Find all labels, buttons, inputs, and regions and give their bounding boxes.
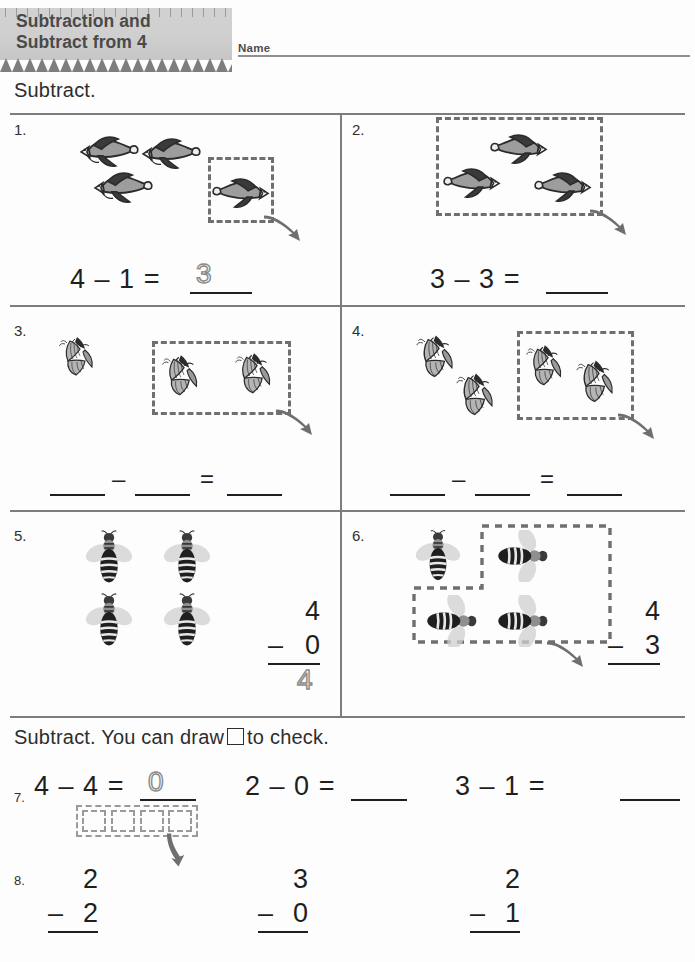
equation-7c: 3 – 1 = xyxy=(455,771,545,802)
subtrahend-blank[interactable] xyxy=(475,494,530,496)
vertical-minuend: 2 xyxy=(470,862,520,896)
page-title: Subtraction and Subtract from 4 xyxy=(16,11,224,53)
problem-number: 8. xyxy=(14,873,25,888)
subtrahend-blank[interactable] xyxy=(135,494,190,496)
take-away-arrow-icon xyxy=(545,640,591,670)
butterfly-icon xyxy=(452,368,506,422)
bee-icon xyxy=(83,591,135,654)
grid-rule-top xyxy=(10,113,685,115)
equals-sign: = xyxy=(108,771,125,801)
square-glyph-icon xyxy=(227,728,244,745)
directions-bottom-text-before: Subtract. You can draw xyxy=(14,726,224,748)
vertical-rule[interactable] xyxy=(608,663,660,665)
problem-number: 1. xyxy=(14,121,27,138)
answer-blank[interactable] xyxy=(351,799,407,801)
butterfly-icon xyxy=(158,350,210,402)
answer-blank[interactable] xyxy=(140,799,196,801)
butterfly-icon xyxy=(572,355,626,409)
minus-sign: – xyxy=(59,771,75,801)
page-title-line-2: Subtract from 4 xyxy=(16,32,224,53)
answer-blank[interactable] xyxy=(567,494,622,496)
bee-icon xyxy=(161,528,213,591)
problem-number: 5. xyxy=(14,527,27,544)
bee-icon xyxy=(490,530,552,582)
problem-number: 3. xyxy=(14,322,27,339)
directions-bottom-text-after: to check. xyxy=(247,726,329,748)
vertical-subtrahend-row: –0 xyxy=(258,896,308,930)
vertical-minuend: 4 xyxy=(608,594,660,628)
answer-blank[interactable] xyxy=(190,292,252,294)
minuend: 3 xyxy=(430,264,446,294)
minus-sign: – xyxy=(470,896,485,930)
minus-sign: – xyxy=(112,465,125,493)
minuend-blank[interactable] xyxy=(390,494,445,496)
check-square[interactable] xyxy=(82,810,106,832)
check-arrow-icon xyxy=(162,832,192,868)
problem-number: 4. xyxy=(352,322,365,339)
vertical-subtrahend: 0 xyxy=(293,898,308,928)
minuend: 2 xyxy=(245,771,261,801)
directions-bottom: Subtract. You can drawto check. xyxy=(14,726,329,749)
take-away-arrow-icon xyxy=(616,412,662,442)
check-square[interactable] xyxy=(168,810,192,832)
minus-sign: – xyxy=(270,771,286,801)
answer-traced[interactable]: 0 xyxy=(148,766,164,798)
bee-icon xyxy=(490,595,552,647)
butterfly-icon xyxy=(522,340,574,392)
name-input-line[interactable] xyxy=(238,55,690,57)
vertical-subtrahend: 3 xyxy=(645,630,660,660)
equation-7b: 2 – 0 = xyxy=(245,771,335,802)
subtrahend: 3 xyxy=(479,264,495,294)
grid-rule-vertical xyxy=(340,115,342,716)
vertical-minuend: 4 xyxy=(268,594,320,628)
bird-icon xyxy=(533,166,595,210)
subtrahend: 0 xyxy=(294,771,310,801)
vertical-subtrahend-row: –1 xyxy=(470,896,520,930)
check-square[interactable] xyxy=(111,810,135,832)
minus-sign: – xyxy=(608,628,623,662)
vertical-rule[interactable] xyxy=(48,931,98,933)
vertical-rule[interactable] xyxy=(258,931,308,933)
minus-sign: – xyxy=(258,896,273,930)
vertical-rule[interactable] xyxy=(470,931,520,933)
equation-7a: 4 – 4 = xyxy=(34,771,124,802)
bee-icon xyxy=(161,591,213,654)
vertical-subtrahend: 0 xyxy=(305,630,320,660)
vertical-subtrahend-row: –3 xyxy=(608,628,660,662)
grid-rule-3 xyxy=(10,510,685,512)
take-away-arrow-icon xyxy=(274,408,320,438)
vertical-subtrahend: 1 xyxy=(505,898,520,928)
minus-sign: – xyxy=(48,896,63,930)
bee-icon xyxy=(83,528,135,591)
answer-traced[interactable]: 4 xyxy=(297,664,313,696)
vertical-subtrahend: 2 xyxy=(83,898,98,928)
equals-sign: = xyxy=(540,465,554,493)
equals-sign: = xyxy=(504,264,521,294)
name-field-label-wrap: Name xyxy=(238,38,690,56)
subtrahend: 1 xyxy=(504,771,520,801)
equation: 4 – 1 = xyxy=(70,264,160,295)
minus-sign: – xyxy=(455,264,471,294)
minuend: 3 xyxy=(455,771,471,801)
page-title-line-1: Subtraction and xyxy=(16,11,224,32)
answer-blank[interactable] xyxy=(546,292,608,294)
bird-icon xyxy=(442,162,504,206)
problem-number: 7. xyxy=(14,790,25,805)
minus-sign: – xyxy=(480,771,496,801)
problem-number: 2. xyxy=(352,121,365,138)
vertical-minuend: 2 xyxy=(48,862,98,896)
butterfly-icon xyxy=(55,332,105,382)
answer-blank[interactable] xyxy=(620,799,680,801)
answer-blank[interactable] xyxy=(227,494,282,496)
answer-traced[interactable]: 3 xyxy=(196,258,212,290)
take-away-arrow-icon xyxy=(262,214,308,244)
bee-icon xyxy=(419,595,481,647)
minuend-blank[interactable] xyxy=(50,494,105,496)
banner-zigzag-icon xyxy=(0,58,232,72)
bird-icon xyxy=(211,172,273,216)
minus-sign: – xyxy=(268,628,283,662)
minus-sign: – xyxy=(452,465,465,493)
check-square[interactable] xyxy=(140,810,164,832)
subtrahend: 4 xyxy=(83,771,99,801)
directions-top: Subtract. xyxy=(14,79,96,102)
